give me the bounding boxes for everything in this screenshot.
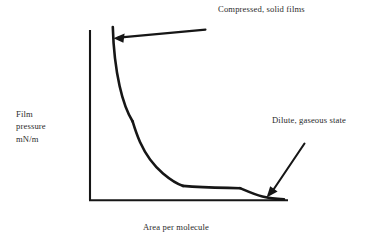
arrow-compressed-solid-films xyxy=(113,30,205,43)
arrow-dilute-gaseous-state xyxy=(267,144,305,198)
y-axis-label: Film pressure mN/m xyxy=(16,108,46,145)
isotherm-curve-transition xyxy=(133,121,184,185)
isotherm-curve-plateau xyxy=(183,186,240,188)
annotation-label-compressed-solid-films: Compressed, solid films xyxy=(218,4,305,15)
annotation-label-dilute-gaseous-state: Dilute, gaseous state xyxy=(272,115,346,126)
x-axis-label: Area per molecule xyxy=(143,222,209,233)
figure-canvas: Compressed, solid films Dilute, gaseous … xyxy=(0,0,379,241)
isotherm-curve-gaseous-tail xyxy=(240,188,284,199)
